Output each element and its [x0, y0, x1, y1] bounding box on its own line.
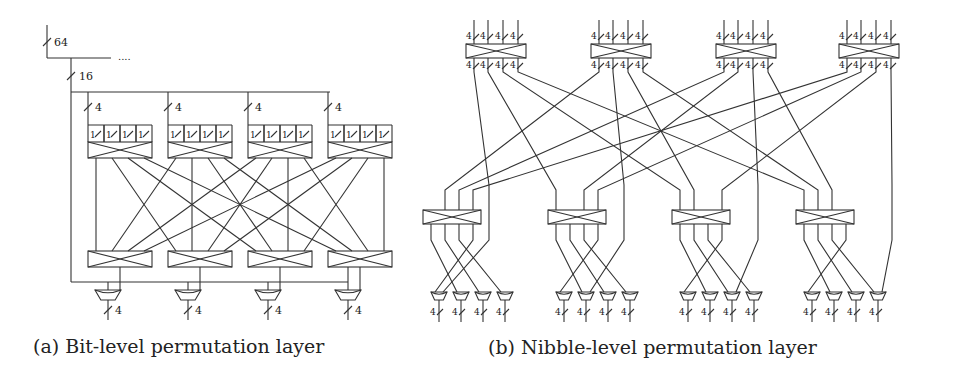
bus-width-4: 4 [745, 31, 751, 41]
bus-width-4: 4 [605, 31, 611, 41]
bus-width-1: 1 [250, 130, 256, 140]
bus-width-4: 4 [883, 60, 889, 70]
nibble-output-wire [431, 224, 457, 292]
bus-width-1: 1 [90, 130, 96, 140]
permutation-diagram: 64....16411114111141111411114444 4444444… [0, 0, 956, 385]
bus-width-slash [303, 131, 309, 137]
bus-width-4: 4 [255, 101, 262, 114]
bus-width-slash [562, 309, 568, 315]
bus-width-4: 4 [555, 307, 561, 317]
nibble-bypass-wire [736, 58, 758, 292]
nibble-permutation-wire [445, 58, 599, 210]
bus-width-slash [437, 309, 443, 315]
bus-width-4: 4 [745, 60, 751, 70]
bus-width-slash [207, 131, 213, 137]
nibble-permutation-wire [584, 58, 738, 210]
bus-width-1: 1 [122, 130, 128, 140]
bus-width-slash [584, 309, 590, 315]
bus-width-slash [127, 131, 133, 137]
nibble-output-wire [556, 224, 582, 292]
bus-width-1: 1 [218, 130, 224, 140]
bus-width-slash [459, 309, 465, 315]
bus-width-4: 4 [803, 307, 809, 317]
bus-width-slash [143, 131, 149, 137]
panel-b-nibble-level: 4444444444444444444444444444444444444444… [423, 20, 899, 322]
nibble-output-wire [804, 224, 830, 292]
bus-width-4: 4 [275, 304, 282, 317]
bus-width-4: 4 [730, 31, 736, 41]
bus-width-4: 4 [510, 31, 516, 41]
bus-width-4: 4 [760, 60, 766, 70]
bus-width-4: 4 [760, 31, 766, 41]
bus-width-4: 4 [883, 31, 889, 41]
bus-width-1: 1 [298, 130, 304, 140]
bus-width-4: 4 [839, 31, 845, 41]
nibble-permutation-wire [768, 58, 832, 210]
bus-width-4: 4 [635, 31, 641, 41]
bus-width-slash [628, 309, 634, 315]
continuation-dots: .... [118, 51, 131, 62]
bus-width-4: 4 [115, 304, 122, 317]
bus-width-4: 4 [621, 307, 627, 317]
bus-width-slash [95, 131, 101, 137]
nibble-output-wire [560, 224, 598, 292]
bus-width-4: 4 [466, 60, 472, 70]
bus-width-4: 4 [853, 31, 859, 41]
bus-width-4: 4 [591, 31, 597, 41]
nibble-permutation-wire [488, 58, 556, 210]
bus-width-4: 4 [599, 307, 605, 317]
bus-width-4: 4 [723, 307, 729, 317]
bus-width-4: 4 [510, 60, 516, 70]
bus-width-1: 1 [186, 130, 192, 140]
bus-width-1: 1 [330, 130, 336, 140]
bus-width-4: 4 [730, 60, 736, 70]
bus-width-4: 4 [868, 60, 874, 70]
bus-width-1: 1 [346, 130, 352, 140]
bus-width-4: 4 [701, 307, 707, 317]
bus-width-4: 4 [175, 101, 182, 114]
bus-width-4: 4 [620, 60, 626, 70]
bus-width-4: 4 [195, 304, 202, 317]
bus-width-4: 4 [355, 304, 362, 317]
bus-width-4: 4 [853, 60, 859, 70]
bus-width-4: 4 [495, 31, 501, 41]
bus-width-1: 1 [378, 130, 384, 140]
bus-width-slash [730, 309, 736, 315]
bus-width-4: 4 [716, 60, 722, 70]
bus-width-1: 1 [106, 130, 112, 140]
bus-width-1: 1 [138, 130, 144, 140]
bus-width-slash [606, 309, 612, 315]
bus-width-slash [271, 131, 277, 137]
nibble-output-wire [680, 224, 706, 292]
bus-width-slash [367, 131, 373, 137]
nibble-permutation-wire [598, 58, 861, 210]
caption-b: (b) Nibble-level permutation layer [488, 336, 817, 358]
nibble-permutation-wire [722, 58, 876, 210]
nibble-output-wire [459, 224, 501, 292]
bus-width-slash [686, 309, 692, 315]
bus-width-1: 1 [362, 130, 368, 140]
nibble-permutation-wire [518, 58, 804, 210]
bus-width-slash [223, 131, 229, 137]
bus-width-4: 4 [839, 60, 845, 70]
bus-width-slash [876, 309, 882, 315]
bus-width-4: 4 [430, 307, 436, 317]
bus-width-4: 4 [716, 31, 722, 41]
nibble-bypass-wire [443, 58, 489, 292]
bus-width-1: 1 [266, 130, 272, 140]
bus-width-4: 4 [847, 307, 853, 317]
bus-width-4: 4 [679, 307, 685, 317]
bus-width-slash [191, 131, 197, 137]
nibble-output-wire [435, 224, 473, 292]
bus-width-4: 4 [495, 60, 501, 70]
nibble-permutation-wire [459, 58, 724, 210]
nibble-output-wire [584, 224, 626, 292]
nibble-permutation-wire [503, 58, 680, 210]
bus-width-slash [287, 131, 293, 137]
nibble-output-wire [684, 224, 722, 292]
bus-width-slash [383, 131, 389, 137]
bus-width-slash [175, 131, 181, 137]
nibble-permutation-wire [628, 58, 694, 210]
nibble-bypass-wire [882, 58, 892, 292]
bus-width-slash [708, 309, 714, 315]
